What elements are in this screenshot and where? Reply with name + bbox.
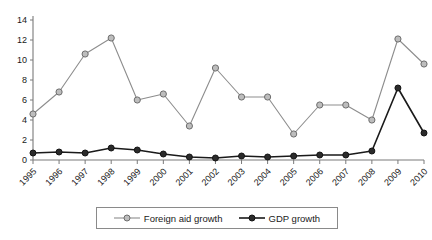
legend-marker-open-circle-icon [114, 213, 140, 223]
gdp-growth-line [33, 88, 424, 158]
gdp-growth-point [265, 154, 271, 160]
gdp-growth-point [30, 150, 36, 156]
gdp-growth-point [212, 155, 218, 161]
x-axis-labels: 1995199619971998199920002001200220032004… [17, 166, 429, 187]
foreign-aid-growth-point [265, 94, 271, 100]
gdp-growth-point [186, 154, 192, 160]
gdp-growth-point [82, 150, 88, 156]
legend-label-gdp-growth: GDP growth [269, 213, 321, 224]
chart-container: 02468101214 1995199619971998199920002001… [0, 0, 432, 240]
y-axis-tick-label: 12 [17, 35, 27, 45]
foreign-aid-growth-point [108, 35, 114, 41]
y-axis-tick-label: 8 [22, 75, 27, 85]
gdp-growth-markers [30, 85, 427, 161]
foreign-aid-growth-point [395, 36, 401, 42]
x-axis-tick-group [33, 160, 424, 164]
y-axis-tick-label: 14 [17, 15, 27, 25]
foreign-aid-growth-point [82, 51, 88, 57]
gdp-growth-point [317, 152, 323, 158]
x-axis-tick-label: 1999 [121, 166, 142, 187]
foreign-aid-growth-point [291, 131, 297, 137]
foreign-aid-growth-point [134, 97, 140, 103]
gdp-growth-point [369, 148, 375, 154]
gdp-growth-point [395, 85, 401, 91]
x-axis-tick-label: 2007 [330, 166, 351, 187]
foreign-aid-growth-point [343, 102, 349, 108]
gdp-growth-point [239, 153, 245, 159]
line-chart-plot: 02468101214 1995199619971998199920002001… [0, 0, 432, 240]
y-axis-tick-group: 02468101214 [17, 15, 33, 165]
x-axis-tick-label: 1995 [17, 166, 38, 187]
legend-item-foreign-aid-growth: Foreign aid growth [114, 213, 223, 224]
x-axis-tick-label: 2001 [174, 166, 195, 187]
gdp-growth-point [421, 130, 427, 136]
x-axis-tick-label: 2006 [304, 166, 325, 187]
foreign-aid-growth-point [238, 94, 244, 100]
x-axis-tick-label: 2003 [226, 166, 247, 187]
foreign-aid-growth-point [212, 65, 218, 71]
gdp-growth-point [343, 152, 349, 158]
foreign-aid-growth-point [317, 102, 323, 108]
legend-marker-filled-circle-icon [239, 213, 265, 223]
foreign-aid-growth-point [186, 123, 192, 129]
foreign-aid-growth-point [56, 89, 62, 95]
y-axis-tick-label: 10 [17, 55, 27, 65]
foreign-aid-growth-line [33, 38, 424, 134]
x-axis-tick-label: 2008 [356, 166, 377, 187]
foreign-aid-growth-point [160, 91, 166, 97]
y-axis-tick-label: 2 [22, 135, 27, 145]
legend-label-foreign-aid-growth: Foreign aid growth [144, 213, 223, 224]
x-axis-tick-label: 2002 [200, 166, 221, 187]
gdp-growth-point [134, 147, 140, 153]
gdp-growth-point [108, 145, 114, 151]
foreign-aid-growth-markers [30, 35, 427, 137]
foreign-aid-growth-point [421, 61, 427, 67]
gdp-growth-point [160, 151, 166, 157]
y-axis-tick-label: 6 [22, 95, 27, 105]
gdp-growth-point [56, 149, 62, 155]
foreign-aid-growth-point [369, 117, 375, 123]
x-axis-tick-label: 2009 [382, 166, 403, 187]
x-axis-tick-label: 1997 [69, 166, 90, 187]
x-axis-tick-label: 2010 [408, 166, 429, 187]
x-axis-tick-label: 1998 [95, 166, 116, 187]
x-axis-tick-label: 1996 [43, 166, 64, 187]
y-axis-tick-label: 4 [22, 115, 27, 125]
chart-legend: Foreign aid growth GDP growth [96, 207, 338, 229]
x-axis-tick-label: 2005 [278, 166, 299, 187]
y-axis-tick-label: 0 [22, 155, 27, 165]
legend-item-gdp-growth: GDP growth [239, 213, 321, 224]
x-axis-tick-label: 2004 [252, 166, 273, 187]
gdp-growth-point [291, 153, 297, 159]
x-axis-tick-label: 2000 [148, 166, 169, 187]
foreign-aid-growth-point [30, 111, 36, 117]
